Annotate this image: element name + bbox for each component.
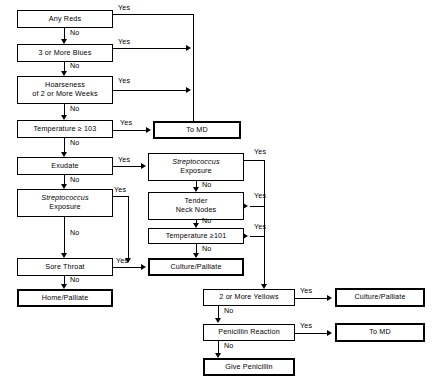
arrowhead-3-blues-yes [186, 45, 191, 51]
edge-label-exudate-yes: Yes [118, 156, 130, 164]
node-hoarseness[interactable]: Hoarseness of 2 or More Weeks [17, 76, 113, 104]
node-streptococcus-exposure-right[interactable]: Streptococcus Exposure [148, 153, 244, 181]
node-penicillin-reaction[interactable]: Penicillin Reaction [203, 324, 295, 341]
edge-sore-throat-yes [113, 267, 141, 268]
node-to-md-top-label: To MD [186, 126, 208, 135]
node-any-reds-label: Any Reds [49, 15, 81, 24]
edge-3-blues-yes [113, 48, 188, 49]
node-3-or-more-blues[interactable]: 3 or More Blues [17, 44, 113, 62]
edge-strep-left-yes [113, 196, 129, 197]
node-2-or-more-yellows-label: 2 or More Yellows [219, 293, 278, 302]
edge-label-penicillin-yes: Yes [300, 322, 312, 330]
edge-label-strep-left-no: No [70, 229, 80, 237]
node-streptococcus-exposure-left[interactable]: Streptococcus Exposure [17, 189, 113, 217]
edge-label-temp101-no: No [202, 245, 212, 253]
edge-label-penicillin-no: No [224, 342, 234, 350]
node-temperature-101[interactable]: Temperature ≥101 [148, 228, 244, 244]
node-give-penicillin-label: Give Penicillin [225, 363, 272, 372]
edge-2-yellows-yes [295, 298, 328, 299]
node-tender-neck-nodes-label-line2: Neck Nodes [176, 206, 217, 215]
arrowhead-2-yellows-yes [327, 295, 332, 301]
arrowhead-hoarseness-yes [186, 87, 191, 93]
edge-any-reds-yes [113, 14, 194, 15]
edge-label-tender-no: No [202, 217, 212, 225]
edge-hoarseness-no [64, 104, 65, 115]
edge-label-strep-right-no: No [202, 181, 212, 189]
node-sore-throat-label: Sore Throat [45, 263, 84, 272]
edge-temp101-no [196, 244, 197, 253]
node-culture-palliate-bottom-right-label: Culture/Palliate [354, 293, 405, 302]
edge-label-2-yellows-yes: Yes [300, 287, 312, 295]
arrowhead-sore-throat-yes [141, 264, 146, 270]
edge-3-blues-no [64, 62, 65, 71]
node-exudate[interactable]: Exudate [17, 157, 113, 175]
flowchart-canvas: Any Reds 3 or More Blues Hoarseness of 2… [0, 0, 434, 383]
node-to-md-bottom-label: To MD [369, 328, 391, 337]
arrowhead-temp103-yes [146, 127, 151, 133]
edge-label-temp103-yes: Yes [120, 119, 132, 127]
node-give-penicillin[interactable]: Give Penicillin [203, 358, 295, 376]
edge-strep-left-yes-drop [128, 196, 129, 258]
node-streptococcus-exposure-right-label-line2: Exposure [180, 167, 212, 176]
edge-exudate-yes [113, 166, 142, 167]
node-any-reds[interactable]: Any Reds [17, 10, 113, 28]
node-penicillin-reaction-label: Penicillin Reaction [218, 328, 280, 337]
edge-temp103-yes [113, 130, 147, 131]
node-tender-neck-nodes[interactable]: Tender Neck Nodes [148, 192, 244, 220]
edge-label-hoarseness-no: No [70, 105, 80, 113]
edge-label-2-yellows-no: No [224, 307, 234, 315]
edge-label-strep-right-yes: Yes [254, 148, 266, 156]
edge-temp101-yes [250, 236, 265, 237]
edge-strep-left-no [64, 217, 65, 253]
edge-label-tender-yes: Yes [254, 192, 266, 200]
node-streptococcus-exposure-left-label-line2: Exposure [49, 203, 81, 212]
edge-label-hoarseness-yes: Yes [118, 77, 130, 85]
edge-exudate-no [64, 175, 65, 184]
node-temperature-103-label: Temperature ≥ 103 [34, 125, 97, 134]
edge-hoarseness-yes [113, 90, 188, 91]
edge-any-reds-no [64, 28, 65, 39]
node-temperature-101-label: Temperature ≥101 [166, 232, 227, 241]
edge-label-3-blues-yes: Yes [118, 38, 130, 46]
edge-tender-yes [250, 206, 265, 207]
edge-2-yellows-no [218, 306, 219, 318]
edge-label-any-reds-yes: Yes [118, 4, 130, 12]
node-culture-palliate-bottom-right[interactable]: Culture/Palliate [335, 288, 425, 307]
node-exudate-label: Exudate [51, 162, 78, 171]
edge-penicillin-yes [295, 333, 328, 334]
edge-label-strep-left-yes: Yes [114, 186, 126, 194]
node-2-or-more-yellows[interactable]: 2 or More Yellows [203, 289, 295, 306]
node-culture-palliate-middle[interactable]: Culture/Palliate [148, 258, 244, 276]
node-temperature-103[interactable]: Temperature ≥ 103 [17, 120, 113, 138]
node-culture-palliate-middle-label: Culture/Palliate [170, 263, 221, 272]
edge-trunk-top [193, 14, 194, 121]
edge-label-temp103-no: No [70, 139, 80, 147]
edge-label-sore-throat-yes: Yes [116, 257, 128, 265]
edge-penicillin-no [218, 341, 219, 353]
node-to-md-top[interactable]: To MD [153, 121, 241, 139]
edge-label-temp101-yes: Yes [254, 223, 266, 231]
edge-label-any-reds-no: No [70, 29, 80, 37]
arrowhead-2-yellows-no [215, 318, 221, 323]
edge-strep-right-yes [244, 160, 265, 161]
edge-label-sore-throat-no: No [70, 276, 80, 284]
node-to-md-bottom[interactable]: To MD [335, 323, 425, 342]
node-hoarseness-label-line2: of 2 or More Weeks [32, 90, 97, 99]
edge-sore-throat-no [64, 276, 65, 284]
arrowhead-penicillin-yes [327, 330, 332, 336]
arrowhead-exudate-yes [141, 163, 146, 169]
node-sore-throat[interactable]: Sore Throat [17, 258, 113, 276]
node-3-or-more-blues-label: 3 or More Blues [39, 49, 92, 58]
node-home-palliate[interactable]: Home/Palliate [17, 289, 113, 307]
edge-temp103-no [64, 138, 65, 152]
edge-label-3-blues-no: No [70, 62, 80, 70]
edge-label-exudate-no: No [70, 176, 80, 184]
node-home-palliate-label: Home/Palliate [42, 294, 89, 303]
